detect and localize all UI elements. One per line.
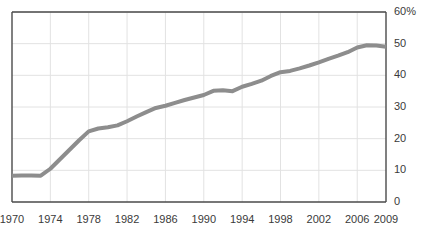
y-tick-label: 40	[394, 69, 406, 80]
line-chart: 0102030405060% 1970197419781982198619901…	[0, 0, 423, 237]
y-tick-label: 60%	[394, 6, 416, 17]
x-tick-label: 1986	[145, 214, 185, 225]
x-tick-label: 2002	[299, 214, 339, 225]
y-tick-label: 10	[394, 164, 406, 175]
x-tick-label: 1982	[107, 214, 147, 225]
y-tick-label: 20	[394, 133, 406, 144]
y-tick-label: 30	[394, 101, 406, 112]
chart-plot-area	[0, 0, 423, 237]
series-line-0	[12, 45, 386, 175]
y-tick-label: 50	[394, 38, 406, 49]
x-tick-label: 1970	[0, 214, 32, 225]
data-series-group	[12, 45, 386, 175]
horizontal-gridlines	[12, 12, 386, 170]
y-tick-label: 0	[394, 196, 400, 207]
x-tick-label: 1978	[69, 214, 109, 225]
x-tick-label: 1990	[184, 214, 224, 225]
x-tick-label: 1994	[222, 214, 262, 225]
x-tick-label: 1974	[30, 214, 70, 225]
x-tick-label: 2009	[366, 214, 406, 225]
x-tick-label: 1998	[261, 214, 301, 225]
